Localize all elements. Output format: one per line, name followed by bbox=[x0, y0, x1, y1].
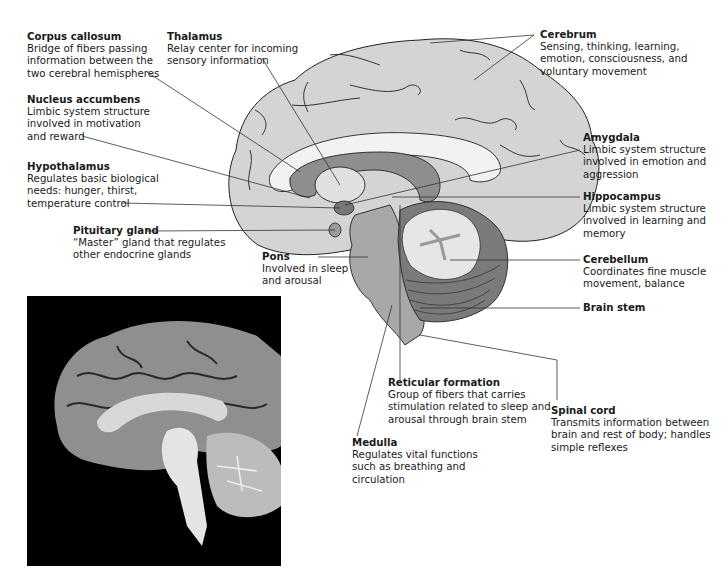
label-pons: Pons Involved in sleep and arousal bbox=[262, 251, 348, 288]
label-hypothalamus: Hypothalamus Regulates basic biological … bbox=[27, 161, 159, 210]
medulla-desc-1: Regulates vital functions bbox=[352, 449, 478, 461]
label-pituitary-gland: Pituitary gland “Master” gland that regu… bbox=[73, 225, 225, 262]
cerebellum-desc-1: Coordinates fine muscle bbox=[583, 266, 706, 278]
pons-desc-1: Involved in sleep bbox=[262, 263, 348, 275]
hippocampus-title: Hippocampus bbox=[583, 191, 706, 203]
pons-title: Pons bbox=[262, 251, 348, 263]
amygdala-desc-3: aggression bbox=[583, 169, 706, 181]
corpus-callosum-title: Corpus callosum bbox=[27, 31, 159, 43]
label-amygdala: Amygdala Limbic system structure involve… bbox=[583, 132, 706, 181]
spinal-cord-desc-3: simple reflexes bbox=[551, 442, 711, 454]
brain-stem-title: Brain stem bbox=[583, 302, 645, 314]
label-spinal-cord: Spinal cord Transmits information betwee… bbox=[551, 405, 711, 454]
amygdala-desc-2: involved in emotion and bbox=[583, 156, 706, 168]
label-medulla: Medulla Regulates vital functions such a… bbox=[352, 437, 478, 486]
medulla-title: Medulla bbox=[352, 437, 478, 449]
spinal-cord-title: Spinal cord bbox=[551, 405, 711, 417]
hippocampus-desc-1: Limbic system structure bbox=[583, 203, 706, 215]
pituitary-gland-title: Pituitary gland bbox=[73, 225, 225, 237]
pituitary-gland-desc-1: “Master” gland that regulates bbox=[73, 237, 225, 249]
corpus-callosum-desc-3: two cerebral hemispheres bbox=[27, 68, 159, 80]
label-thalamus: Thalamus Relay center for incoming senso… bbox=[167, 31, 298, 68]
spinal-cord-desc-2: brain and rest of body; handles bbox=[551, 429, 711, 441]
brain-photo-inset bbox=[27, 296, 281, 566]
nucleus-accumbens-desc-3: and reward bbox=[27, 131, 150, 143]
corpus-callosum-desc-2: information between the bbox=[27, 55, 159, 67]
amygdala-desc-1: Limbic system structure bbox=[583, 144, 706, 156]
thalamus-desc-2: sensory information bbox=[167, 55, 298, 67]
nucleus-accumbens-desc-1: Limbic system structure bbox=[27, 106, 150, 118]
reticular-formation-desc-3: arousal through brain stem bbox=[388, 414, 551, 426]
cerebellum-title: Cerebellum bbox=[583, 254, 706, 266]
cerebellum-desc-2: movement, balance bbox=[583, 278, 706, 290]
cerebrum-desc-3: voluntary movement bbox=[540, 66, 687, 78]
reticular-formation-desc-1: Group of fibers that carries bbox=[388, 389, 551, 401]
label-nucleus-accumbens: Nucleus accumbens Limbic system structur… bbox=[27, 94, 150, 143]
hippocampus-desc-3: memory bbox=[583, 228, 706, 240]
label-cerebellum: Cerebellum Coordinates fine muscle movem… bbox=[583, 254, 706, 291]
label-reticular-formation: Reticular formation Group of fibers that… bbox=[388, 377, 551, 426]
corpus-callosum-desc-1: Bridge of fibers passing bbox=[27, 43, 159, 55]
thalamus-title: Thalamus bbox=[167, 31, 298, 43]
amygdala-title: Amygdala bbox=[583, 132, 706, 144]
hypothalamus-desc-2: needs: hunger, thirst, bbox=[27, 185, 159, 197]
pons-desc-2: and arousal bbox=[262, 275, 348, 287]
cerebrum-desc-2: emotion, consciousness, and bbox=[540, 53, 687, 65]
reticular-formation-desc-2: stimulation related to sleep and bbox=[388, 401, 551, 413]
cerebrum-title: Cerebrum bbox=[540, 29, 687, 41]
thalamus-desc-1: Relay center for incoming bbox=[167, 43, 298, 55]
medulla-desc-2: such as breathing and bbox=[352, 461, 478, 473]
label-cerebrum: Cerebrum Sensing, thinking, learning, em… bbox=[540, 29, 687, 78]
spinal-cord-desc-1: Transmits information between bbox=[551, 417, 711, 429]
label-brain-stem: Brain stem bbox=[583, 302, 645, 314]
nucleus-accumbens-desc-2: involved in motivation bbox=[27, 118, 150, 130]
hypothalamus-title: Hypothalamus bbox=[27, 161, 159, 173]
cerebrum-desc-1: Sensing, thinking, learning, bbox=[540, 41, 687, 53]
hypothalamus-desc-3: temperature control bbox=[27, 198, 159, 210]
nucleus-accumbens-title: Nucleus accumbens bbox=[27, 94, 150, 106]
brain-photo bbox=[27, 296, 281, 566]
label-corpus-callosum: Corpus callosum Bridge of fibers passing… bbox=[27, 31, 159, 80]
reticular-formation-title: Reticular formation bbox=[388, 377, 551, 389]
pituitary-gland-desc-2: other endocrine glands bbox=[73, 249, 225, 261]
hippocampus-desc-2: involved in learning and bbox=[583, 215, 706, 227]
label-hippocampus: Hippocampus Limbic system structure invo… bbox=[583, 191, 706, 240]
medulla-desc-3: circulation bbox=[352, 474, 478, 486]
hypothalamus-desc-1: Regulates basic biological bbox=[27, 173, 159, 185]
